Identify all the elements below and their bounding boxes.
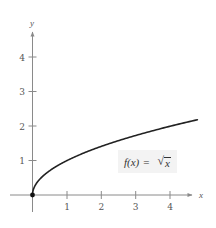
x-tick-label-2: 2 <box>98 202 104 212</box>
y-tick-label-4: 4 <box>19 53 25 63</box>
x-tick-label-3: 3 <box>133 202 139 212</box>
x-tick-label-1: 1 <box>64 202 70 212</box>
x-axis-label: x <box>198 190 203 200</box>
radicand: x <box>164 157 171 169</box>
sqrt-expression: √x <box>158 154 171 169</box>
equals-sign: = <box>143 156 149 168</box>
y-axis-label: y <box>29 18 34 28</box>
y-tick-label-2: 2 <box>19 122 25 132</box>
x-tick-label-4: 4 <box>167 202 173 212</box>
origin-point <box>30 193 35 198</box>
y-tick-label-3: 3 <box>19 87 25 97</box>
function-label: f(x) = √x <box>118 150 177 173</box>
function-name: f(x) <box>124 156 139 168</box>
radical-icon: √ <box>158 154 165 169</box>
y-tick-label-1: 1 <box>19 156 25 166</box>
function-graph: 1 2 3 4 1 2 3 4 x y <box>0 0 216 228</box>
